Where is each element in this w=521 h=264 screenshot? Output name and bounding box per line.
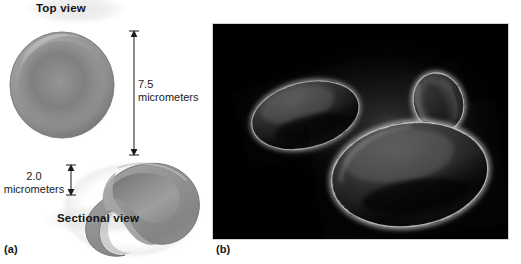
dimension-label-diameter: 7.5 micrometers [138, 78, 199, 104]
panel-b-micrograph [212, 23, 509, 240]
panel-a-illustration: 7.5 micrometers 2.0 micrometers Top view… [0, 0, 210, 264]
top-view-cell-diagram [8, 27, 118, 143]
dimension-unit-thickness: micrometers [4, 183, 65, 195]
dimension-value-thickness: 2.0 [26, 170, 41, 182]
panel-b-label: (b) [216, 243, 230, 255]
sem-micrograph-image [213, 24, 508, 239]
panel-a-label: (a) [4, 243, 18, 255]
figure-red-blood-cell: 7.5 micrometers 2.0 micrometers Top view… [0, 0, 521, 264]
dimension-label-thickness: 2.0 micrometers [2, 170, 66, 196]
sectional-view-cell-diagram [58, 158, 204, 258]
dimension-unit-diameter: micrometers [138, 91, 199, 103]
sectional-view-caption: Sectional view [57, 212, 139, 224]
dimension-value-diameter: 7.5 [138, 78, 153, 90]
top-view-caption: Top view [36, 2, 86, 14]
